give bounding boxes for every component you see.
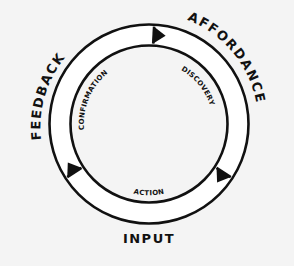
- cycle-svg: FEEDBACK AFFORDANCE INPUT CONFIRMATION D…: [0, 0, 294, 266]
- inner-ring-outline: [71, 46, 228, 203]
- label-input: INPUT: [123, 231, 175, 246]
- feedback-cycle-diagram: FEEDBACK AFFORDANCE INPUT CONFIRMATION D…: [0, 0, 294, 266]
- label-action: ACTION: [133, 188, 165, 198]
- ring-band: [60, 35, 238, 213]
- arrow-top-divider: [153, 27, 154, 44]
